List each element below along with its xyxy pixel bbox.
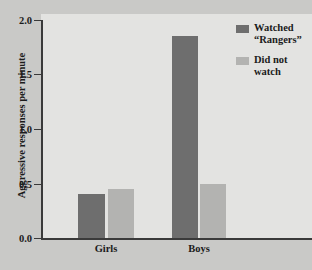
x-category-label-boys: Boys <box>188 243 210 254</box>
y-tick-label-1.5: 1.5 <box>2 69 32 80</box>
y-tick-label-1.0: 1.0 <box>2 124 32 135</box>
y-tick-mark-0.5 <box>34 184 41 185</box>
y-tick-label-2.0: 2.0 <box>2 15 32 26</box>
bar-girls-did-not-watch <box>108 189 134 238</box>
legend-item-watched: Watched “Rangers” <box>236 22 312 45</box>
legend-item-did-not-watch: Did not watch <box>236 54 312 77</box>
legend-swatch-icon-watched <box>236 25 249 33</box>
bar-boys-did-not-watch <box>200 184 226 239</box>
legend: Watched “Rangers” Did not watch <box>236 22 312 86</box>
y-tick-label-0.5: 0.5 <box>2 179 32 190</box>
legend-label-did-not-watch: Did not watch <box>254 54 288 77</box>
legend-swatch-icon-did-not-watch <box>236 57 249 65</box>
bar-girls-watched <box>78 194 105 238</box>
y-tick-mark-0.0 <box>34 238 41 239</box>
x-category-label-girls: Girls <box>95 243 118 254</box>
y-tick-mark-1.5 <box>34 74 41 75</box>
y-tick-mark-2.0 <box>34 20 41 21</box>
x-axis-line <box>41 238 312 240</box>
y-tick-mark-1.0 <box>34 129 41 130</box>
y-tick-label-0.0: 0.0 <box>2 233 32 244</box>
legend-label-watched: Watched “Rangers” <box>254 22 302 45</box>
bar-boys-watched <box>172 36 198 238</box>
y-axis-line <box>41 20 43 239</box>
bar-chart: Aggressive responses per minute 2.0 1.5 … <box>0 0 312 270</box>
